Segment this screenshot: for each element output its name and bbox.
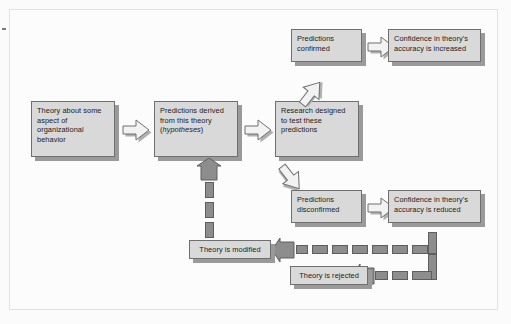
node-predictions-label: Predictions derived from this theory (hy… [154,101,238,157]
feedback-segment-h-a4 [332,245,348,254]
node-confidence-reduced: Confidence in theory's accuracy is reduc… [388,190,481,223]
node-theory-modified: Theory is modified [189,240,271,259]
node-confirmed-label: Predictions confirmed [291,29,362,62]
feedback-arrowhead-to-modified [272,238,296,262]
feedback-segment-vertical-a1 [428,232,437,254]
node-theory-rejected: Theory is rejected [290,266,368,285]
node-disconfirmed: Predictions disconfirmed [291,190,362,223]
node-theory-rejected-label: Theory is rejected [290,266,368,285]
node-confirmed: Predictions confirmed [291,29,362,62]
feedback-segment-v-b1 [205,222,214,238]
feedback-segment-v-b3 [205,182,214,198]
node-predictions-text-part2: ) [201,125,204,134]
node-theory-label: Theory about some aspect of organization… [31,101,115,157]
arrow-research-to-confirmed [288,62,332,104]
feedback-segment-h-a1 [392,245,408,254]
feedback-segment-h-a2 [372,245,388,254]
node-confidence-increased: Confidence in theory's accuracy is incre… [388,29,481,62]
node-research: Research designed to test these predicti… [275,101,359,157]
node-predictions-text-italic: hypotheses [163,125,201,134]
arrow-theory-to-predictions [121,117,151,143]
margin-tick-mark [2,28,6,30]
arrow-predictions-to-research [243,117,273,143]
node-predictions: Predictions derived from this theory (hy… [154,101,238,157]
feedback-segment-h-c1 [412,271,432,280]
feedback-segment-h-a5 [312,245,328,254]
diagram-canvas: Theory about some aspect of organization… [0,0,511,324]
feedback-arrowhead-to-predictions [197,158,221,182]
feedback-segment-h-a6 [296,245,308,254]
node-theory: Theory about some aspect of organization… [31,101,115,157]
node-theory-modified-label: Theory is modified [189,240,271,259]
node-research-label: Research designed to test these predicti… [275,101,359,157]
feedback-segment-v-b2 [205,202,214,218]
feedback-segment-h-a3 [352,245,368,254]
node-confidence-increased-label: Confidence in theory's accuracy is incre… [388,29,481,62]
node-disconfirmed-label: Predictions disconfirmed [291,190,362,223]
node-confidence-reduced-label: Confidence in theory's accuracy is reduc… [388,190,481,223]
feedback-segment-h-a0 [412,245,428,254]
feedback-segment-h-c2 [392,271,408,280]
feedback-segment-h-c3 [375,271,388,280]
